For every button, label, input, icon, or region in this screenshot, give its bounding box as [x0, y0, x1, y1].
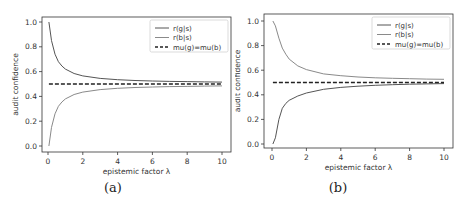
legend-label: r(g|s) — [395, 22, 414, 30]
y-tick-label: 1.0 — [25, 18, 37, 27]
legend-label: r(b|s) — [173, 34, 192, 42]
y-axis-label: audit confidence — [235, 49, 242, 112]
x-tick-label: 0 — [270, 153, 275, 162]
y-tick-label: 0.6 — [25, 67, 37, 76]
y-axis-label: audit confidence — [11, 53, 20, 116]
caption-b: (b) — [308, 180, 368, 195]
x-tick-label: 0 — [46, 157, 51, 166]
y-tick-label: 0.2 — [247, 115, 259, 124]
y-tick-label: 0.0 — [25, 142, 37, 151]
x-tick-label: 4 — [115, 157, 120, 166]
legend-label: r(g|s) — [173, 25, 192, 33]
x-tick-label: 8 — [185, 157, 190, 166]
x-tick-label: 10 — [217, 157, 227, 166]
x-tick-label: 4 — [338, 153, 343, 162]
legend-label: mu(g)=mu(b) — [395, 41, 443, 49]
x-tick-label: 10 — [439, 153, 449, 162]
y-tick-label: 0.2 — [25, 117, 37, 126]
series-line — [49, 86, 222, 146]
y-tick-label: 0.8 — [25, 42, 37, 51]
caption-a: (a) — [83, 180, 143, 195]
y-tick-label: 1.0 — [247, 17, 259, 26]
x-axis-label: epistemic factor λ — [325, 163, 393, 172]
panel-b: 02468100.00.20.40.60.81.0epistemic facto… — [235, 0, 470, 209]
line-chart-b: 02468100.00.20.40.60.81.0epistemic facto… — [235, 0, 470, 209]
x-tick-label: 6 — [150, 157, 155, 166]
x-tick-label: 2 — [304, 153, 309, 162]
y-tick-label: 0.0 — [247, 140, 259, 149]
y-tick-label: 0.4 — [25, 92, 37, 101]
legend-label: mu(g)=mu(b) — [173, 44, 221, 52]
panel-a: 02468100.00.20.40.60.81.0epistemic facto… — [0, 0, 235, 209]
y-tick-label: 0.8 — [247, 41, 259, 50]
x-tick-label: 6 — [373, 153, 378, 162]
x-tick-label: 2 — [80, 157, 85, 166]
line-chart-a: 02468100.00.20.40.60.81.0epistemic facto… — [0, 0, 235, 209]
series-line — [273, 84, 444, 144]
y-tick-label: 0.4 — [247, 90, 259, 99]
x-tick-label: 8 — [407, 153, 412, 162]
x-axis-label: epistemic factor λ — [103, 167, 171, 176]
y-tick-label: 0.6 — [247, 66, 259, 75]
legend-label: r(b|s) — [395, 31, 414, 39]
